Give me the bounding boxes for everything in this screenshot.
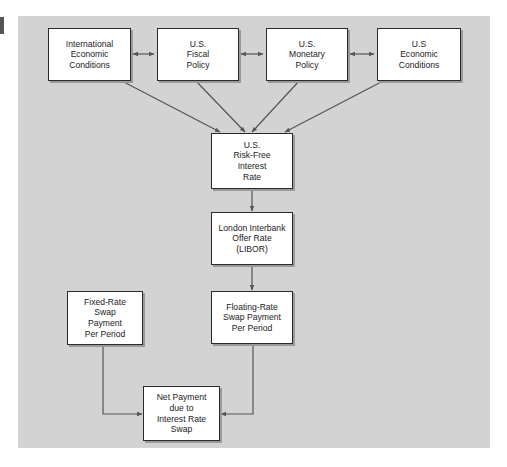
node-libor: London Interbank Offer Rate (LIBOR) xyxy=(211,212,293,265)
node-us-economic-conditions: U.S Economic Conditions xyxy=(377,28,461,81)
node-us-monetary-policy: U.S. Monetary Policy xyxy=(266,28,348,81)
corner-marker xyxy=(0,17,4,34)
node-us-fiscal-policy: U.S. Fiscal Policy xyxy=(157,28,239,81)
node-net-payment: Net Payment due to Interest Rate Swap xyxy=(143,386,220,441)
node-us-risk-free-interest-rate: U.S. Risk-Free Interest Rate xyxy=(211,133,293,189)
node-international-economic-conditions: International Economic Conditions xyxy=(48,28,131,81)
node-floating-rate-swap-payment: Floating-Rate Swap Payment Per Period xyxy=(211,291,293,344)
node-fixed-rate-swap-payment: Fixed-Rate Swap Payment Per Period xyxy=(67,291,143,345)
